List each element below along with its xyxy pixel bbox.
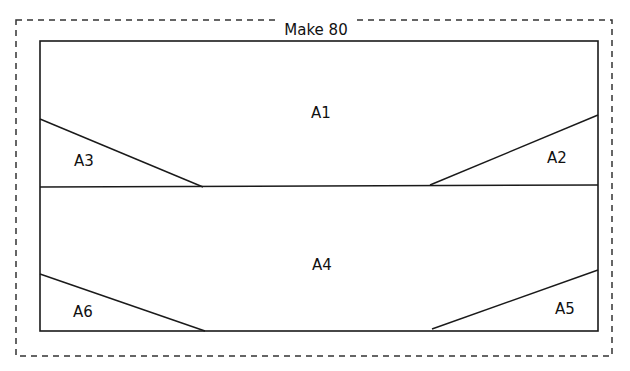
piece-label-a4: A4: [312, 256, 332, 274]
piece-label-a3: A3: [74, 152, 94, 170]
diagram-title: Make 80: [284, 21, 347, 39]
a2-diagonal: [430, 115, 598, 185]
quilt-block-diagram: Make 80 A1 A2 A3 A4 A5 A6: [0, 0, 630, 371]
piece-label-a1: A1: [311, 104, 331, 122]
piece-label-a6: A6: [73, 303, 93, 321]
middle-divider: [40, 185, 598, 187]
seam-allowance-border: [16, 20, 612, 356]
piece-label-a2: A2: [547, 149, 567, 167]
a3-diagonal: [40, 119, 203, 187]
piece-label-a5: A5: [555, 300, 575, 318]
a6-diagonal: [40, 274, 205, 331]
